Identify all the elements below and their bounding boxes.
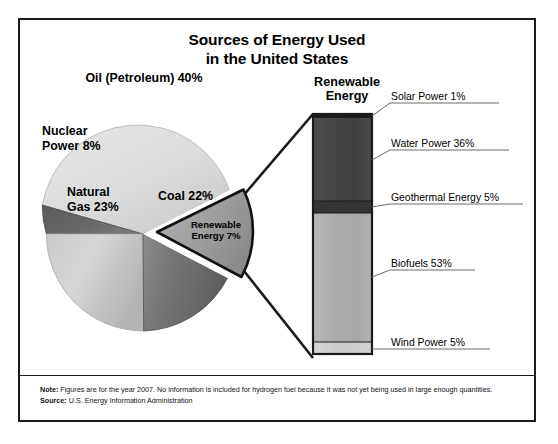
footnote-note-text: Figures are for the year 2007. No inform… — [58, 385, 492, 394]
bar-segment-wind[interactable] — [313, 342, 372, 354]
pie-label-coal: Coal 22% — [158, 189, 213, 203]
pie-label-natural-gas-line1: Natural — [67, 185, 110, 199]
footnote-note-label: Note: — [40, 385, 58, 394]
bar-segment-biofuels[interactable] — [313, 213, 372, 342]
bar-label-solar: Solar Power 1% — [391, 91, 466, 102]
pie-slice-natural-gas[interactable] — [46, 234, 143, 331]
pie-chart: Oil (Petroleum) 40% Nuclear Power 8% Nat… — [42, 71, 253, 331]
bar-segment-geothermal[interactable] — [313, 201, 372, 213]
bar-label-geothermal: Geothermal Energy 5% — [391, 192, 499, 203]
pie-label-renewable-line2: Energy 7% — [191, 230, 241, 241]
leader-line-biofuels — [372, 270, 475, 277]
bar-title-line-1: Renewable — [314, 75, 380, 89]
bar-label-wind: Wind Power 5% — [391, 337, 465, 348]
pie-label-nuclear-line1: Nuclear — [42, 124, 88, 138]
footnote-source-label: Source: — [40, 396, 67, 405]
footnote-divider — [20, 375, 534, 376]
leader-line-geothermal — [372, 204, 523, 207]
footnote-source-text: U.S. Energy Information Administration — [67, 396, 193, 405]
bar-label-biofuels: Biofuels 53% — [391, 258, 452, 269]
figure-root: Sources of Energy Used in the United Sta… — [0, 0, 558, 444]
footnote-source-line: Source: U.S. Energy Information Administ… — [40, 395, 520, 406]
bar-callout-labels: Solar Power 1% Water Power 36% Geotherma… — [372, 91, 523, 349]
pie-label-natural-gas-line2: Gas 23% — [67, 200, 119, 214]
bar-label-water: Water Power 36% — [391, 138, 474, 149]
figure-frame: Sources of Energy Used in the United Sta… — [18, 18, 536, 422]
footnote-note-line: Note: Figures are for the year 2007. No … — [40, 384, 520, 395]
pie-label-oil: Oil (Petroleum) 40% — [85, 71, 202, 85]
leader-line-water — [372, 150, 509, 160]
leader-line-solar — [372, 103, 499, 116]
renewable-energy-bar: Renewable Energy — [313, 75, 380, 354]
bar-title-line-2: Energy — [326, 89, 369, 103]
bar-segment-water[interactable] — [313, 118, 372, 201]
pie-label-renewable-line1: Renewable — [191, 219, 241, 230]
energy-chart: Oil (Petroleum) 40% Nuclear Power 8% Nat… — [20, 20, 534, 420]
pie-label-nuclear-line2: Power 8% — [42, 139, 101, 153]
footnote-block: Note: Figures are for the year 2007. No … — [40, 384, 520, 406]
